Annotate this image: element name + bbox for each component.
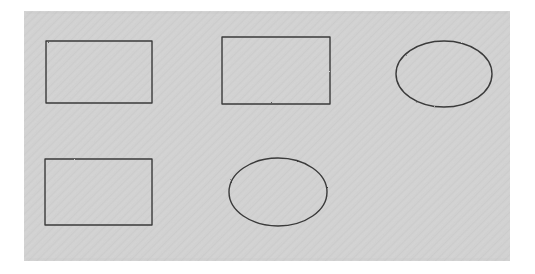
shapes-figure-svg <box>0 0 535 274</box>
panel-grain <box>24 11 510 261</box>
scanned-gray-panel <box>24 11 510 261</box>
figure-root: Scanned geometric shapes figure <box>0 0 535 274</box>
